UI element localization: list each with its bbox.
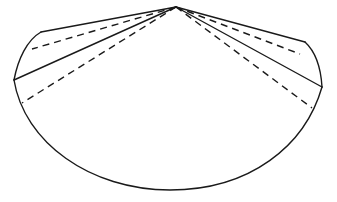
figure-canvas	[0, 0, 337, 202]
line-drawing-svg	[0, 0, 337, 202]
